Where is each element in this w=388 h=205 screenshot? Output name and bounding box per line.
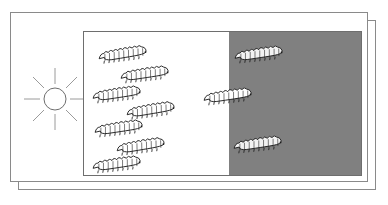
dark-zone xyxy=(229,32,361,175)
diagram-canvas xyxy=(0,0,388,205)
light-zone xyxy=(84,32,229,175)
experiment-panel xyxy=(83,31,362,176)
sun-icon xyxy=(24,68,86,130)
